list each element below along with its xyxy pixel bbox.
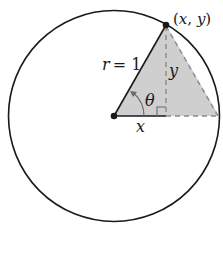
angle-label: θ: [145, 91, 155, 110]
radius-label: r= 1: [102, 55, 141, 74]
point-label: (x, y): [173, 10, 211, 28]
center-point-icon: [111, 113, 118, 120]
point-on-circle-icon: [163, 22, 170, 29]
opposite-label: y: [168, 61, 179, 80]
adjacent-label: x: [136, 117, 145, 136]
unit-circle-diagram: (x, y) r= 1 y θ x: [0, 0, 223, 255]
